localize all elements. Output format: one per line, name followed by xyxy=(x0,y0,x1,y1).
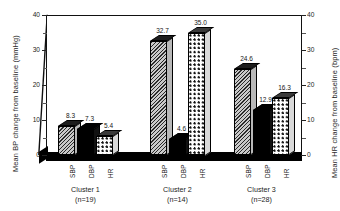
bar-hr-cluster-1 xyxy=(96,136,113,155)
bar-side-face xyxy=(289,94,295,155)
x-category-label-hr-cluster-2: HR xyxy=(199,168,206,178)
cluster-sample-size: (n=28) xyxy=(220,195,303,205)
y-tick-right-30 xyxy=(301,50,306,51)
cluster-sample-size: (n=19) xyxy=(44,195,127,205)
bar-value-label: 16.3 xyxy=(273,84,296,91)
x-category-label-dbp-cluster-2: DBP xyxy=(180,164,187,178)
y-tick-left-20 xyxy=(42,85,47,86)
bar-sbp-cluster-1 xyxy=(58,126,75,155)
bar-hr-cluster-3 xyxy=(272,98,289,155)
y-tick-label-right-40: 40 xyxy=(307,11,321,18)
y-tick-label-left-20: 20 xyxy=(26,81,40,88)
y-tick-right-40 xyxy=(301,15,306,16)
y-tick-label-right-20: 20 xyxy=(307,81,321,88)
x-category-label-dbp-cluster-1: DBP xyxy=(88,164,95,178)
bar-front-face xyxy=(188,33,205,156)
y-tick-label-left-0: 0 xyxy=(26,151,40,158)
x-category-label-hr-cluster-3: HR xyxy=(283,168,290,178)
bar-front-face xyxy=(58,126,75,155)
bar-chart: Mean BP change from baseline (mmHg) Mean… xyxy=(0,0,340,211)
x-category-label-hr-cluster-1: HR xyxy=(107,168,114,178)
cluster-name: Cluster 3 xyxy=(220,185,303,195)
bar-value-label: 35.0 xyxy=(189,19,212,26)
cluster-sample-size: (n=14) xyxy=(136,195,219,205)
y-tick-left-10 xyxy=(42,120,47,121)
bar-dbp-cluster-1 xyxy=(77,129,94,155)
y-tick-left-40 xyxy=(42,15,47,16)
bar-value-label: 32.7 xyxy=(151,27,174,34)
bar-front-face xyxy=(96,136,113,155)
bar-sbp-cluster-2 xyxy=(150,41,167,155)
y-minor-tick-right-25 xyxy=(302,68,306,69)
bar-front-face xyxy=(272,98,289,155)
y-tick-label-left-10: 10 xyxy=(26,116,40,123)
bar-front-face xyxy=(77,129,94,155)
bar-front-face xyxy=(253,110,270,155)
cluster-name: Cluster 2 xyxy=(136,185,219,195)
bar-value-label: 24.6 xyxy=(235,55,258,62)
bar-dbp-cluster-2 xyxy=(169,139,186,155)
y-tick-right-10 xyxy=(301,120,306,121)
cluster-caption-3: Cluster 3(n=28) xyxy=(220,185,303,204)
bar-hr-cluster-2 xyxy=(188,33,205,156)
cluster-caption-2: Cluster 2(n=14) xyxy=(136,185,219,204)
x-category-label-sbp-cluster-3: SBP xyxy=(245,165,252,178)
y-minor-tick-left-5 xyxy=(43,138,47,139)
bar-front-face xyxy=(150,41,167,155)
y-axis-title-right: Mean HR change from baseline (bpm) xyxy=(330,48,339,178)
bar-value-label: 5.4 xyxy=(97,122,120,129)
bar-dbp-cluster-3 xyxy=(253,110,270,155)
x-category-label-sbp-cluster-1: SBP xyxy=(69,165,76,178)
y-tick-right-0 xyxy=(301,155,306,156)
y-axis-title-left: Mean BP change from baseline (mmHg) xyxy=(11,35,20,172)
y-minor-tick-right-15 xyxy=(302,103,306,104)
y-minor-tick-left-25 xyxy=(43,68,47,69)
cluster-name: Cluster 1 xyxy=(44,185,127,195)
bar-side-face xyxy=(205,29,211,155)
bar-front-face xyxy=(234,69,251,155)
y-tick-label-right-0: 0 xyxy=(307,151,321,158)
y-tick-label-right-10: 10 xyxy=(307,116,321,123)
y-tick-label-left-40: 40 xyxy=(26,11,40,18)
bar-front-face xyxy=(169,139,186,155)
y-tick-label-right-30: 30 xyxy=(307,46,321,53)
x-category-label-sbp-cluster-2: SBP xyxy=(161,165,168,178)
cluster-caption-1: Cluster 1(n=19) xyxy=(44,185,127,204)
bar-sbp-cluster-3 xyxy=(234,69,251,155)
y-minor-tick-right-5 xyxy=(302,138,306,139)
y-tick-right-20 xyxy=(301,85,306,86)
x-category-label-dbp-cluster-3: DBP xyxy=(264,164,271,178)
y-minor-tick-left-15 xyxy=(43,103,47,104)
y-tick-label-left-30: 30 xyxy=(26,46,40,53)
y-tick-left-0 xyxy=(42,155,47,156)
bar-side-face xyxy=(113,132,119,155)
y-tick-left-30 xyxy=(42,50,47,51)
y-minor-tick-left-35 xyxy=(43,33,47,34)
y-minor-tick-right-35 xyxy=(302,33,306,34)
